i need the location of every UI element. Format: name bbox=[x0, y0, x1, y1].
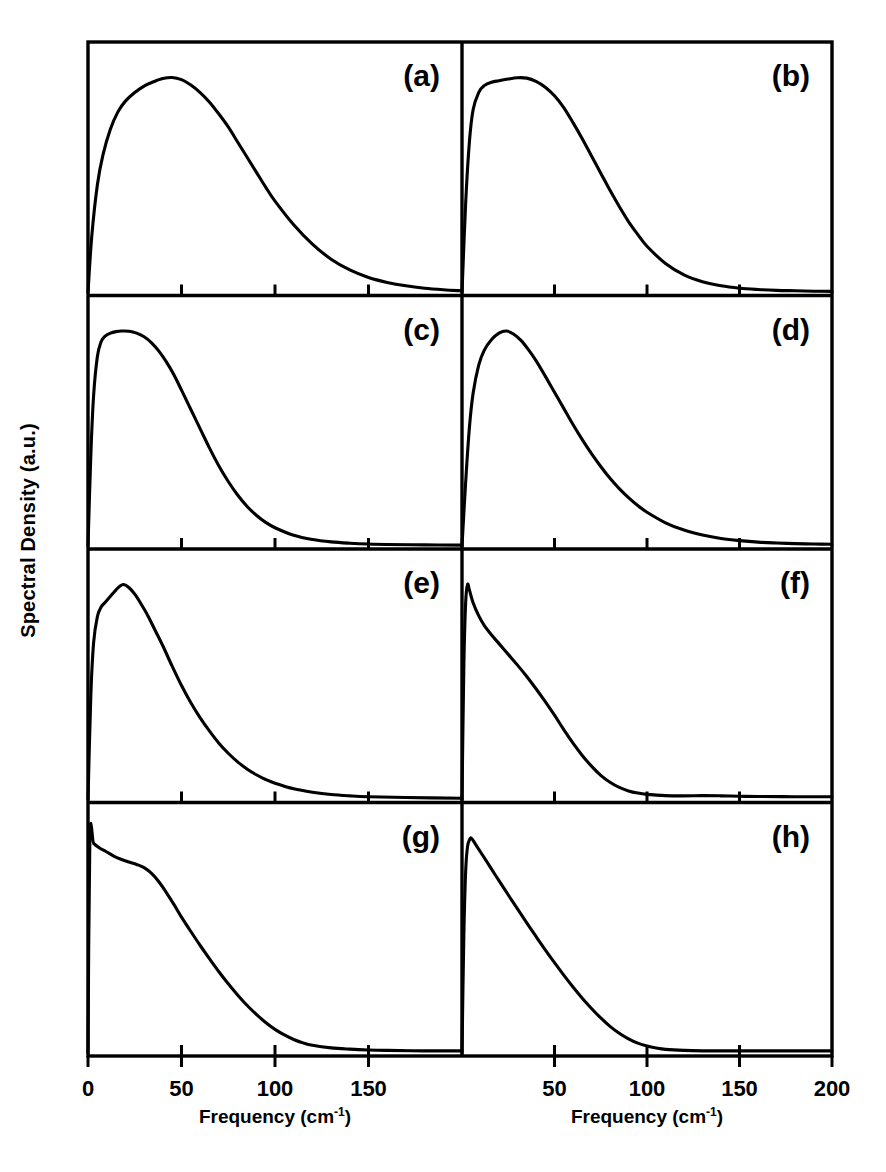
panel-label-g: (g) bbox=[402, 820, 440, 853]
x-axis-label-right-main: Frequency (cm bbox=[571, 1106, 706, 1127]
curve-c bbox=[88, 331, 462, 546]
x-tick-label: 100 bbox=[629, 1076, 666, 1101]
curve-e bbox=[88, 584, 462, 799]
panel-label-b: (b) bbox=[772, 59, 810, 92]
panel-label-e: (e) bbox=[403, 566, 440, 599]
panel-label-c: (c) bbox=[403, 313, 440, 346]
curve-h bbox=[462, 838, 832, 1053]
axis-ticks bbox=[88, 285, 832, 1068]
x-tick-label: 50 bbox=[542, 1076, 566, 1101]
x-tick-label: 50 bbox=[169, 1076, 193, 1101]
curve-d bbox=[462, 331, 832, 546]
panel-label-h: (h) bbox=[772, 820, 810, 853]
panel-frames bbox=[88, 42, 832, 1056]
curve-a bbox=[88, 77, 462, 292]
x-axis-label-right: Frequency (cm-1) bbox=[462, 1105, 832, 1128]
x-tick-label: 150 bbox=[350, 1076, 387, 1101]
x-tick-label: 100 bbox=[257, 1076, 294, 1101]
x-axis-label-right-exponent: -1 bbox=[706, 1105, 717, 1119]
curve-b bbox=[462, 78, 832, 293]
x-axis-label-left: Frequency (cm-1) bbox=[88, 1105, 462, 1128]
panel-label-a: (a) bbox=[403, 59, 440, 92]
x-axis-label-left-main: Frequency (cm bbox=[199, 1106, 334, 1127]
x-tick-labels: 05010015050100150200 bbox=[82, 1076, 850, 1101]
x-axis-label-left-exponent: -1 bbox=[334, 1105, 345, 1119]
spectral-curves bbox=[88, 77, 832, 1053]
figure-root: 05010015050100150200 (a)(b)(c)(d)(e)(f)(… bbox=[0, 0, 886, 1172]
curve-g bbox=[88, 823, 462, 1053]
curve-f bbox=[462, 584, 832, 800]
x-tick-label: 0 bbox=[82, 1076, 94, 1101]
x-tick-label: 150 bbox=[721, 1076, 758, 1101]
spectral-density-figure: 05010015050100150200 (a)(b)(c)(d)(e)(f)(… bbox=[0, 0, 886, 1172]
x-tick-label: 200 bbox=[814, 1076, 851, 1101]
x-axis-label-right-close: ) bbox=[717, 1106, 723, 1127]
panel-label-f: (f) bbox=[780, 566, 810, 599]
panel-label-d: (d) bbox=[772, 313, 810, 346]
x-axis-label-left-close: ) bbox=[345, 1106, 351, 1127]
